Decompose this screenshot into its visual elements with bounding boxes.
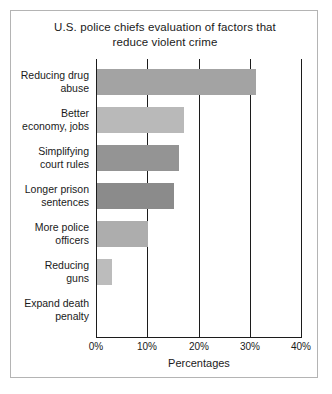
bar-category-label-line-1: Longer prison (25, 183, 89, 196)
bar-row: Simplifyingcourt rules (11, 139, 319, 177)
bar-category-label-line-2: abuse (60, 82, 89, 95)
x-tick-label: 30% (230, 341, 270, 352)
bar-category-label: Reducing drugabuse (11, 63, 89, 101)
bar-row: Longer prisonsentences (11, 177, 319, 215)
x-axis-line (96, 337, 302, 338)
bar-category-label-line-1: Reducing drug (21, 69, 89, 82)
bar-category-label: Bettereconomy, jobs (11, 101, 89, 139)
bar-category-label: Expand deathpenalty (11, 291, 89, 329)
bar (97, 221, 148, 247)
x-tick-label: 10% (127, 341, 167, 352)
bar-category-label-line-2: penalty (55, 310, 89, 323)
bar-category-label-line-2: sentences (41, 196, 89, 209)
x-axis-title: Percentages (96, 357, 302, 369)
bar-category-label-line-2: court rules (40, 158, 89, 171)
bar-row: Reducing drugabuse (11, 63, 319, 101)
x-tick-label: 20% (179, 341, 219, 352)
plot-area: Percentages Reducing drugabuseBetterecon… (11, 11, 319, 379)
bar-row: Expand deathpenalty (11, 291, 319, 329)
bar-category-label: Simplifyingcourt rules (11, 139, 89, 177)
bar-category-label-line-1: Reducing (45, 259, 89, 272)
bar (97, 259, 112, 285)
bar-category-label-line-1: Better (61, 107, 89, 120)
bar (97, 183, 174, 209)
chart-figure: U.S. police chiefs evaluation of factors… (10, 10, 318, 378)
bar-category-label: Longer prisonsentences (11, 177, 89, 215)
bar-category-label-line-1: More police (35, 221, 89, 234)
x-tick-label: 0% (76, 341, 116, 352)
bar-category-label-line-2: officers (55, 234, 89, 247)
bar-row: Bettereconomy, jobs (11, 101, 319, 139)
bar-category-label-line-2: guns (66, 272, 89, 285)
bar (97, 107, 184, 133)
bar-category-label-line-1: Expand death (24, 297, 89, 310)
bar-category-label-line-1: Simplifying (38, 145, 89, 158)
bar (97, 69, 256, 95)
bar-row: Reducingguns (11, 253, 319, 291)
bar-category-label-line-2: economy, jobs (22, 120, 89, 133)
x-tick-label: 40% (281, 341, 321, 352)
bar-row: More policeofficers (11, 215, 319, 253)
bar (97, 145, 179, 171)
bar-category-label: Reducingguns (11, 253, 89, 291)
bar-category-label: More policeofficers (11, 215, 89, 253)
